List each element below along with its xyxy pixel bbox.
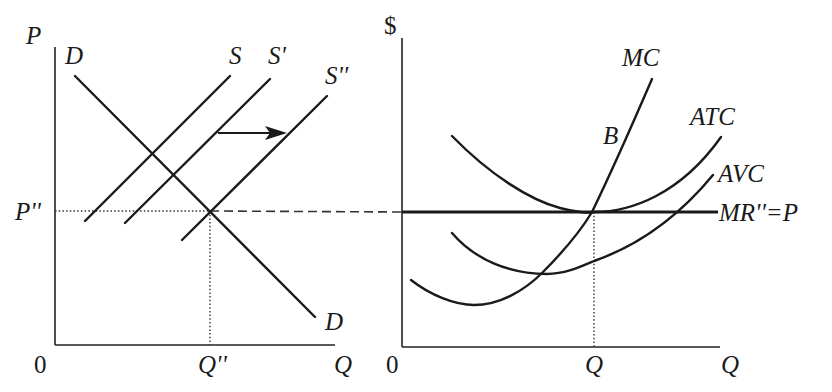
market-panel: P D S S' S'' P'' D 0 Q'' Q: [14, 22, 402, 378]
avc-label: AVC: [716, 160, 764, 187]
market-origin-label: 0: [34, 351, 47, 378]
market-y-axis-label: P: [25, 22, 41, 49]
firm-y-axis-label: $: [384, 12, 397, 39]
firm-x-axis-label: Q: [721, 351, 739, 378]
supply-label-s: S: [229, 42, 242, 69]
demand-label-top: D: [64, 42, 83, 69]
point-b-label: B: [603, 122, 618, 149]
supply-curve-s: [85, 76, 230, 221]
price-label: P'': [14, 198, 42, 225]
mr-label: MR''=P: [718, 199, 798, 226]
supply-label-s-prime: S': [268, 42, 287, 69]
mc-curve: [411, 79, 652, 305]
price-extension-dashed: [210, 211, 402, 212]
firm-origin-label: 0: [386, 351, 399, 378]
atc-curve: [452, 136, 721, 213]
market-x-axis-label: Q: [334, 351, 352, 378]
demand-label-bottom: D: [324, 308, 343, 335]
supply-label-s-double-prime: S'': [325, 62, 349, 89]
supply-curve-s-prime: [125, 79, 270, 223]
firm-panel: $ MC B ATC AVC MR''=P 0 Q Q: [384, 12, 798, 378]
shift-arrow-icon: [218, 126, 287, 140]
equilibrium-quantity-label: Q'': [198, 351, 227, 378]
firm-quantity-label: Q: [585, 351, 603, 378]
economics-diagram: P D S S' S'' P'' D 0 Q'' Q $ MC B ATC AV…: [0, 0, 832, 392]
atc-label: ATC: [688, 103, 735, 130]
supply-curve-s-double-prime: [182, 96, 327, 240]
mc-label: MC: [621, 44, 660, 71]
